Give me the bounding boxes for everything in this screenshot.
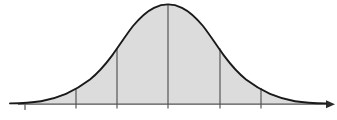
bell-curve-figure (0, 0, 337, 120)
normal-distribution-chart (0, 0, 337, 120)
x-axis-arrowhead-icon (326, 100, 335, 108)
